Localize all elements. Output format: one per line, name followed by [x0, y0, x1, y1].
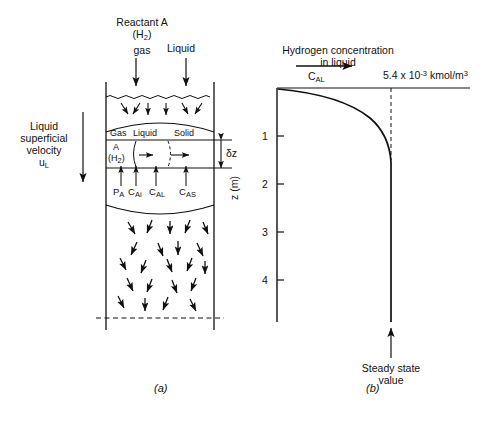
steady-state-annotation: Steady state value — [345, 362, 437, 386]
superficial-velocity-label: Liquid superficial velocity uL — [14, 120, 74, 172]
y-tick-label-2: 2 — [262, 178, 268, 190]
element-bottom-curve — [106, 205, 214, 214]
velocity-symbol: uL — [39, 156, 49, 168]
y-axis-label: z (m) — [228, 176, 240, 200]
liquid-inlet-label: Liquid — [167, 42, 195, 54]
zone-header-liquid: Liquid — [133, 127, 157, 139]
bubble-swarm-arrows — [118, 220, 208, 311]
concentration-label-pa: PA — [113, 186, 124, 201]
x-axis-symbol: CAL — [308, 70, 325, 86]
liquid-surface-wave — [106, 96, 210, 99]
zone-header-gas: Gas — [110, 127, 127, 139]
y-tick-label-1: 1 — [262, 130, 268, 142]
plot-y-ticks — [277, 136, 284, 280]
reactor-column-walls — [106, 82, 214, 330]
concentration-label-cal: CAL — [149, 186, 165, 201]
steady-state-value-label: 5.4 x 10-3 kmol/m3 — [383, 68, 468, 81]
concentration-label-cas: CAS — [179, 186, 196, 201]
inner-species-formula: (H2) — [108, 152, 125, 167]
zone-header-solid: Solid — [174, 127, 194, 139]
figure-root: Reactant A (H2) gas Liquid Liquid superf… — [0, 0, 501, 428]
delta-z-label: δz — [226, 147, 237, 159]
panel-b-caption: (b) — [366, 382, 379, 394]
droplet-arrows-upper — [121, 103, 202, 115]
concentration-label-cai: CAi — [128, 186, 142, 201]
plot-title: Hydrogen concentration in liquid — [268, 44, 408, 68]
phase-interface-lines — [134, 141, 171, 167]
y-tick-label-3: 3 — [262, 226, 268, 238]
reactant-formula: (H2) — [133, 28, 152, 40]
y-tick-label-4: 4 — [262, 274, 268, 286]
concentration-profile-curve — [278, 89, 391, 322]
panel-a-caption: (a) — [154, 382, 167, 394]
concentration-leader-arrows — [121, 166, 186, 186]
